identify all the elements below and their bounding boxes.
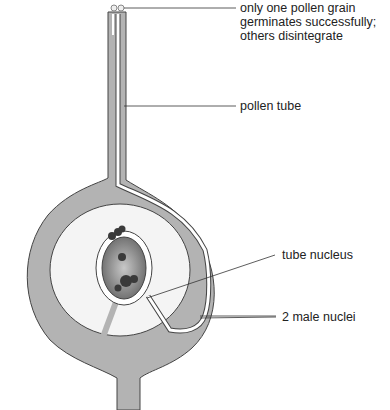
male-nuclei-label: 2 male nuclei [282,310,356,324]
tube-nucleus-label: tube nucleus [282,248,353,262]
ovule-diagram [0,0,390,410]
embryo-sac [102,237,146,299]
pollen-grain [118,5,124,11]
ovary-wall [27,12,214,410]
pollen-grain-label: only one pollen grain germinates success… [240,1,376,43]
pollen-tube-label: pollen tube [240,99,301,113]
pollen-grain [111,5,117,11]
